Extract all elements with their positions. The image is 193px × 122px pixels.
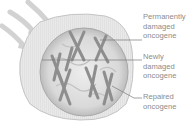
label-line: Repaired (143, 92, 176, 102)
label-line: Newly (143, 52, 176, 62)
label-permanently-damaged-oncogene: Permanently damaged oncogene (143, 12, 186, 41)
label-line: oncogene (143, 102, 176, 112)
label-line: damaged (143, 22, 186, 32)
label-line: oncogene (143, 31, 186, 41)
label-line: oncogene (143, 71, 176, 81)
label-line: damaged (143, 62, 176, 72)
nucleus (40, 28, 128, 116)
label-line: Permanently (143, 12, 186, 22)
label-newly-damaged-oncogene: Newly damaged oncogene (143, 52, 176, 81)
label-repaired-oncogene: Repaired oncogene (143, 92, 176, 111)
